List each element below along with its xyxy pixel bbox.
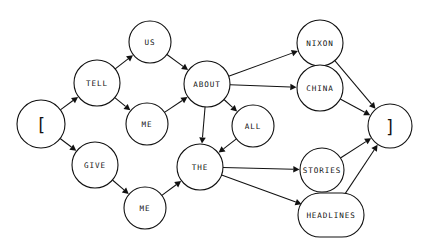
node-label: NIXON xyxy=(306,39,333,48)
edge-about-to-all xyxy=(224,100,237,112)
edge-about-to-nixon xyxy=(229,50,298,76)
node-label: CHINA xyxy=(306,84,333,93)
arrowhead-icon xyxy=(174,181,181,187)
arrowhead-icon xyxy=(71,97,78,103)
edge-me_bottom-to-the xyxy=(162,181,181,195)
node-start[interactable]: [ xyxy=(17,100,65,148)
node-label: ABOUT xyxy=(193,80,220,89)
arrowhead-icon xyxy=(371,145,377,152)
node-label: ME xyxy=(142,120,153,129)
node-me_top[interactable]: ME xyxy=(126,103,168,145)
edge-the-to-headlines xyxy=(222,175,302,205)
lattice-canvas: [TELLGIVEUSMEMEABOUTALLTHENIXONCHINASTOR… xyxy=(0,0,427,251)
edge-start-to-tell xyxy=(60,97,78,110)
arrowhead-icon xyxy=(126,55,133,61)
arrowhead-icon xyxy=(290,84,296,91)
word-lattice-diagram: [TELLGIVEUSMEMEABOUTALLTHENIXONCHINASTOR… xyxy=(0,0,427,251)
edge-tell-to-us xyxy=(115,55,133,69)
arrowhead-icon xyxy=(364,138,371,144)
node-label: ALL xyxy=(245,122,261,131)
node-china[interactable]: CHINA xyxy=(297,65,343,111)
node-label: ME xyxy=(140,204,151,213)
edge-tell-to-me_top xyxy=(115,98,131,111)
arrowhead-icon xyxy=(219,146,226,152)
node-label: [ xyxy=(36,115,46,135)
node-the[interactable]: THE xyxy=(177,144,223,190)
arrowhead-icon xyxy=(180,97,187,103)
node-layer: [TELLGIVEUSMEMEABOUTALLTHENIXONCHINASTOR… xyxy=(17,20,412,237)
node-stories[interactable]: STORIES xyxy=(300,148,344,192)
node-nixon[interactable]: NIXON xyxy=(297,20,343,66)
node-label: HEADLINES xyxy=(306,211,355,220)
edge-china-to-end xyxy=(340,99,370,115)
edge-the-to-stories xyxy=(223,166,300,173)
node-headlines[interactable]: HEADLINES xyxy=(298,193,364,237)
node-label: ] xyxy=(385,117,395,137)
edge-give-to-me_bottom xyxy=(112,180,128,194)
arrowhead-icon xyxy=(293,166,299,173)
node-give[interactable]: GIVE xyxy=(72,142,118,188)
node-all[interactable]: ALL xyxy=(232,105,274,147)
edge-all-to-the xyxy=(219,139,237,153)
node-label: STORIES xyxy=(303,166,341,175)
node-label: GIVE xyxy=(84,161,106,170)
arrowhead-icon xyxy=(69,144,76,150)
arrowhead-icon xyxy=(123,104,130,110)
edge-stories-to-end xyxy=(340,138,371,158)
arrowhead-icon xyxy=(199,137,206,143)
node-me_bottom[interactable]: ME xyxy=(124,187,166,229)
node-tell[interactable]: TELL xyxy=(74,60,120,106)
edge-us-to-about xyxy=(167,54,188,70)
node-end[interactable]: ] xyxy=(368,104,412,148)
node-about[interactable]: ABOUT xyxy=(184,61,230,107)
edge-about-to-china xyxy=(230,84,297,91)
edge-about-to-the xyxy=(199,107,206,144)
edge-me_top-to-about xyxy=(164,97,187,112)
node-label: US xyxy=(145,38,156,47)
node-us[interactable]: US xyxy=(129,21,171,63)
edge-start-to-give xyxy=(60,139,76,151)
arrowhead-icon xyxy=(181,64,188,70)
node-label: THE xyxy=(192,163,208,172)
node-label: TELL xyxy=(86,79,108,88)
